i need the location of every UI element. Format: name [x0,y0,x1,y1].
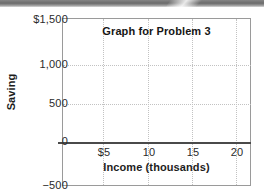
y-tick-label-0: 0 [8,135,68,147]
chart-figure: $1,500 1,000 500 0 −500 $5 10 15 20 Grap… [0,0,264,196]
x-tick-label-10: 10 [129,146,169,158]
y-tick-label-minus-500: −500 [8,179,68,191]
y-tick-label-1000: 1,000 [8,58,68,70]
y-tick-label-500: 500 [8,97,68,109]
y-tick-label-1500: $1,500 [8,13,68,25]
x-tick-label-15: 15 [173,146,213,158]
zero-axis-line [58,142,251,144]
gridline-horizontal-1000 [63,65,251,66]
scan-artifact-streak [166,0,206,7]
x-tick-label-5: $5 [84,146,124,158]
gridline-horizontal-500 [63,104,251,105]
x-axis-title: Income (thousands) [62,161,251,173]
scan-artifact-band [0,0,264,7]
x-tick-label-20: 20 [217,146,257,158]
chart-title: Graph for Problem 3 [62,25,251,37]
y-axis-title: Saving [5,62,17,122]
